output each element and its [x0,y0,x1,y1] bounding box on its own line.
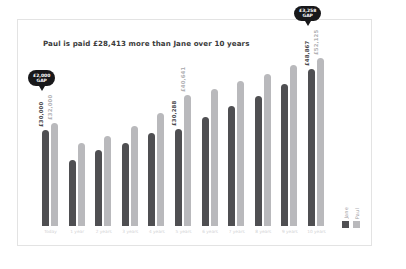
x-axis-label: 2 years [92,229,115,234]
x-axis-label: 4 years [145,229,168,234]
bar-jane[interactable] [122,143,129,226]
bar-paul[interactable] [51,123,58,226]
gap-start-caption: GAP [36,78,46,83]
legend-swatch-jane [342,221,349,228]
bar-jane[interactable] [228,106,235,226]
bar-paul[interactable] [131,126,138,226]
bar-paul[interactable] [104,136,111,226]
bar-jane[interactable] [95,150,102,226]
bar-chart-plot-area: £30,000£32,000Today1 year2 years3 years4… [24,46,346,226]
x-axis-label: Today [39,229,62,234]
gap-start-amount: £2,000 [33,73,50,78]
bar-jane[interactable] [175,129,182,226]
x-axis-label: 7 years [225,229,248,234]
bar-value-label-paul: £32,000 [47,95,53,120]
bar-paul[interactable] [157,113,164,226]
bar-paul[interactable] [237,81,244,226]
x-axis-label: 1 year [66,229,89,234]
gap-end-caption: GAP [302,13,312,18]
chart-card: Paul is paid £28,413 more than Jane over… [17,19,372,246]
bar-group: 2 years [92,46,115,226]
legend-item-paul[interactable]: Paul [353,208,360,228]
bar-group: 9 years [278,46,301,226]
gap-end-callout: £3,258GAP [294,6,321,22]
bar-value-label-jane: £30,000 [38,101,44,126]
legend-item-jane[interactable]: Jane [342,207,349,228]
chart-legend: Jane Paul [342,207,360,228]
legend-label-jane: Jane [343,207,349,219]
bar-group: 8 years [252,46,275,226]
bar-group: £48,867£52,12510 years [305,46,328,226]
bar-paul[interactable] [317,58,324,226]
bar-paul[interactable] [211,89,218,226]
bar-value-label-jane: £30,288 [171,100,177,125]
x-axis-label: 8 years [252,229,275,234]
bar-paul[interactable] [184,95,191,226]
x-axis-label: 5 years [172,229,195,234]
bar-paul[interactable] [264,74,271,226]
bar-jane[interactable] [42,130,49,226]
bar-value-label-jane: £48,867 [304,41,310,66]
legend-label-paul: Paul [354,208,360,219]
bar-value-label-paul: £40,641 [180,67,186,92]
bar-jane[interactable] [202,117,209,226]
bar-group: £30,288£40,6415 years [172,46,195,226]
legend-swatch-paul [353,221,360,228]
bar-group: 1 year [66,46,89,226]
bar-group: 7 years [225,46,248,226]
bar-jane[interactable] [281,84,288,226]
gap-start-callout: £2,000GAP [28,70,55,86]
bar-group: 3 years [119,46,142,226]
gap-end-amount: £3,258 [299,8,316,13]
bar-jane[interactable] [255,96,262,227]
bar-group: 6 years [199,46,222,226]
bar-jane[interactable] [148,133,155,226]
bar-jane[interactable] [69,160,76,226]
x-axis-label: 9 years [278,229,301,234]
bar-jane[interactable] [308,69,315,226]
bar-group: 4 years [145,46,168,226]
x-axis-label: 10 years [305,229,328,234]
x-axis-label: 6 years [199,229,222,234]
bar-paul[interactable] [78,143,85,226]
bar-paul[interactable] [290,65,297,226]
bar-value-label-paul: £52,125 [313,30,319,55]
x-axis-label: 3 years [119,229,142,234]
